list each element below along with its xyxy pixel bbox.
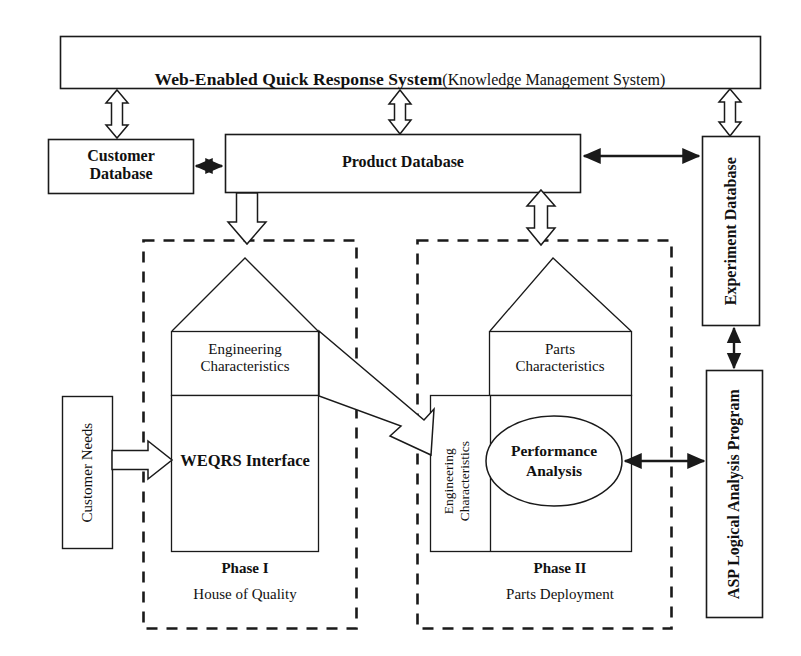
arrow-customer-needs-to-weqrs [112, 441, 172, 479]
phase1-body-room [172, 396, 319, 552]
customer-database-label: Customer Database [48, 147, 194, 184]
system-title-main: Web-Enabled Quick Response System [155, 69, 443, 89]
customer-needs-label: Customer Needs [79, 399, 96, 547]
phase1-roof-label: Engineering Characteristics [172, 341, 318, 376]
phase2-caption-title: Phase II [489, 560, 631, 577]
system-bar-title: Web-Enabled Quick Response System(Knowle… [60, 51, 760, 90]
arrow-system-to-customer-db [106, 90, 128, 138]
phase2-roof-label: Parts Characteristics [489, 341, 631, 376]
experiment-database-label: Experiment Database [722, 136, 740, 326]
performance-analysis-label: Performance Analysis [489, 441, 619, 481]
diagram-canvas: Web-Enabled Quick Response System(Knowle… [0, 0, 801, 656]
arrow-system-to-product-db [389, 90, 411, 134]
arrow-product-db-to-phase2 [527, 190, 555, 245]
diagram-vector-layer [0, 0, 801, 656]
phase1-caption-title: Phase I [172, 560, 318, 577]
phase1-caption-subtitle: House of Quality [162, 586, 328, 603]
phase2-roof-triangle [490, 258, 631, 331]
asp-program-label: ASP Logical Analysis Program [725, 370, 743, 618]
phase2-caption-subtitle: Parts Deployment [478, 586, 642, 603]
phase1-roof-triangle [172, 258, 318, 331]
product-database-label: Product Database [226, 153, 580, 171]
arrow-phase1-to-phase2 [319, 331, 434, 455]
phase2-side-label: Engineering Characteristics [441, 406, 473, 556]
system-title-sub: (Knowledge Management System) [442, 71, 665, 88]
phase1-body-label: WEQRS Interface [172, 452, 318, 471]
arrow-product-db-to-phase1 [228, 193, 266, 244]
arrow-system-to-experiment-db [719, 89, 741, 136]
